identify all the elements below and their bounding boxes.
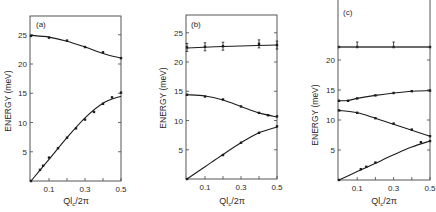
- data-point: [240, 142, 242, 144]
- data-point: [267, 114, 269, 116]
- data-point: [30, 35, 32, 37]
- fit-curve: [339, 141, 430, 180]
- fit-curve: [187, 95, 277, 117]
- data-points: [186, 40, 279, 180]
- curves: [187, 45, 277, 179]
- data-point: [48, 36, 50, 38]
- y-tick-label: 25: [18, 31, 27, 40]
- data-point: [429, 89, 431, 91]
- x-ticks: 0.10.30.5: [43, 178, 127, 194]
- data-point: [360, 168, 362, 170]
- figure: 510152025 0.10.30.5 (a) ENERGY (meV) Qlc…: [0, 0, 436, 212]
- plot-frame: [186, 15, 277, 179]
- x-tick-label: 0.1: [352, 184, 364, 193]
- data-point: [411, 90, 413, 92]
- data-point: [222, 98, 224, 100]
- data-point: [186, 178, 188, 180]
- y-ticks: 510152025: [18, 31, 121, 157]
- data-point: [84, 118, 86, 120]
- data-point: [411, 128, 413, 130]
- data-point: [338, 109, 340, 111]
- data-point: [374, 161, 376, 163]
- data-points: [30, 35, 122, 182]
- panel-label: (a): [36, 20, 46, 29]
- y-ticks: 5101520: [326, 56, 430, 155]
- y-tick-label: 10: [326, 116, 335, 125]
- x-tick-label: 0.1: [43, 185, 55, 194]
- y-axis-label: ENERGY (meV): [158, 67, 168, 128]
- data-point: [42, 165, 44, 167]
- x-tick-label: 0.5: [424, 184, 436, 193]
- data-point: [75, 127, 77, 129]
- x-tick-label: 0.3: [388, 184, 400, 193]
- x-axis-label: Qlc/2π: [219, 196, 245, 207]
- x-axis-label: Qlc/2π: [371, 196, 397, 207]
- data-point: [429, 140, 431, 142]
- data-point: [338, 179, 340, 181]
- data-point: [429, 135, 431, 137]
- y-tick-label: 15: [18, 89, 27, 98]
- data-point: [120, 91, 122, 93]
- data-point: [102, 103, 104, 105]
- data-point: [240, 105, 242, 107]
- data-point: [356, 112, 358, 114]
- data-point: [338, 100, 340, 102]
- curves: [31, 35, 121, 181]
- y-tick-label: 20: [174, 58, 183, 67]
- data-point: [258, 132, 260, 134]
- data-point: [258, 112, 260, 114]
- x-ticks: 0.10.30.5: [352, 177, 436, 193]
- y-axis-label: ENERGY (meV): [3, 70, 13, 131]
- y-axis-label: ENERGY (meV): [310, 84, 320, 145]
- data-point: [48, 156, 50, 158]
- panel-b: 510152025 0.10.30.5 (b) ENERGY (meV) Qlc…: [158, 15, 283, 207]
- data-point: [204, 95, 206, 97]
- x-tick-label: 0.3: [79, 185, 91, 194]
- fit-curve: [339, 110, 430, 136]
- panel-a: 510152025 0.10.30.5 (a) ENERGY (meV) Qlc…: [3, 16, 127, 207]
- y-tick-label: 15: [326, 86, 335, 95]
- y-tick-label: 25: [174, 29, 183, 38]
- x-tick-label: 0.5: [271, 183, 283, 192]
- data-point: [93, 111, 95, 113]
- data-point: [374, 117, 376, 119]
- data-point: [30, 180, 32, 182]
- data-point: [222, 154, 224, 156]
- data-point: [420, 141, 422, 143]
- curves: [338, 47, 430, 180]
- fit-curve: [31, 35, 121, 58]
- data-point: [392, 122, 394, 124]
- y-tick-label: 5: [179, 146, 184, 155]
- y-tick-label: 5: [23, 148, 28, 157]
- fit-curve: [339, 91, 430, 101]
- data-point: [186, 94, 188, 96]
- data-point: [365, 166, 367, 168]
- x-tick-label: 0.3: [235, 183, 247, 192]
- plot-frame: [30, 16, 121, 181]
- data-point: [102, 51, 104, 53]
- panel-label: (c): [343, 8, 353, 17]
- fit-curve: [187, 127, 277, 179]
- x-axis-label: Qlc/2π: [63, 196, 89, 207]
- y-tick-label: 20: [326, 56, 335, 65]
- panel-c: 5101520 0.10.30.5 (c) ENERGY (meV) Qlc/2…: [310, 0, 436, 207]
- data-point: [120, 57, 122, 59]
- plot-frame: [338, 0, 430, 180]
- y-tick-label: 5: [331, 146, 336, 155]
- data-point: [276, 115, 278, 117]
- data-point: [374, 94, 376, 96]
- data-point: [57, 147, 59, 149]
- fit-curve: [187, 45, 277, 48]
- data-point: [392, 92, 394, 94]
- x-tick-label: 0.5: [115, 185, 127, 194]
- y-tick-label: 20: [18, 60, 27, 69]
- y-tick-label: 15: [174, 87, 183, 96]
- data-point: [356, 97, 358, 99]
- data-point: [66, 39, 68, 41]
- data-point: [66, 137, 68, 139]
- data-point: [111, 96, 113, 98]
- data-point: [39, 169, 41, 171]
- data-point: [347, 100, 349, 102]
- x-ticks: 0.10.30.5: [199, 176, 283, 192]
- data-point: [276, 125, 278, 127]
